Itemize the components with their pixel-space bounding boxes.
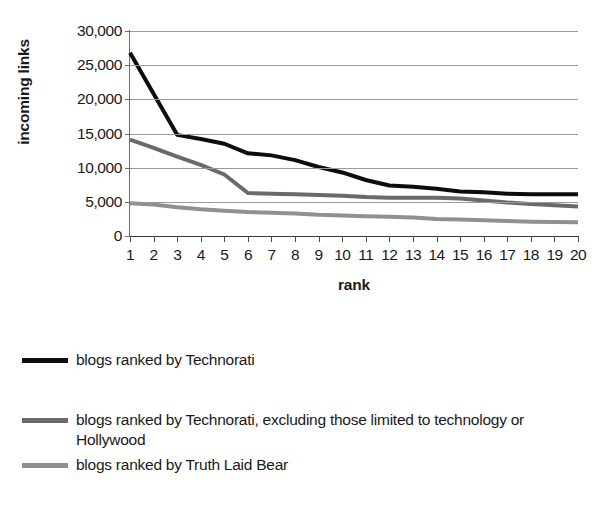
y-tick-mark — [125, 202, 130, 203]
chart-plot-region: incoming links 05,00010,00015,00020,0002… — [0, 0, 596, 310]
x-tick-mark — [554, 236, 555, 242]
y-tick-label: 5,000 — [85, 193, 122, 211]
x-tick-mark — [248, 236, 249, 242]
y-tick-label: 0 — [114, 227, 122, 245]
legend-item[interactable]: blogs ranked by Technorati — [22, 350, 254, 370]
x-tick-label: 13 — [405, 246, 421, 264]
x-tick-label: 20 — [570, 246, 586, 264]
x-tick-mark — [366, 236, 367, 242]
x-tick-label: 16 — [476, 246, 492, 264]
y-tick-mark — [125, 31, 130, 32]
y-tick-mark — [125, 168, 130, 169]
gridline — [130, 202, 578, 203]
y-tick-label: 15,000 — [77, 125, 122, 143]
x-tick-mark — [531, 236, 532, 242]
y-tick-mark — [125, 99, 130, 100]
x-tick-mark — [342, 236, 343, 242]
y-tick-mark — [125, 134, 130, 135]
x-tick-mark — [224, 236, 225, 242]
gridline — [130, 99, 578, 100]
y-tick-label: 30,000 — [77, 22, 122, 40]
legend-item[interactable]: blogs ranked by Truth Laid Bear — [22, 455, 288, 475]
x-tick-mark — [413, 236, 414, 242]
x-axis-title: rank — [130, 276, 578, 294]
gridline — [130, 31, 578, 32]
x-tick-label: 1 — [126, 246, 134, 264]
legend-line-swatch-icon — [22, 463, 68, 468]
x-tick-label: 2 — [150, 246, 158, 264]
x-tick-label: 4 — [197, 246, 205, 264]
x-tick-label: 12 — [381, 246, 397, 264]
x-axis-line — [129, 236, 578, 237]
y-tick-label: 20,000 — [77, 90, 122, 108]
x-tick-mark — [460, 236, 461, 242]
x-tick-mark — [130, 236, 131, 242]
y-tick-label: 25,000 — [77, 56, 122, 74]
x-tick-mark — [319, 236, 320, 242]
y-tick-label: 10,000 — [77, 159, 122, 177]
x-tick-mark — [437, 236, 438, 242]
legend-item[interactable]: blogs ranked by Technorati, excluding th… — [22, 410, 596, 450]
x-tick-label: 18 — [523, 246, 539, 264]
blog-incoming-links-line-chart: incoming links 05,00010,00015,00020,0002… — [0, 0, 596, 505]
x-tick-label: 3 — [173, 246, 181, 264]
legend-label: blogs ranked by Technorati, excluding th… — [76, 410, 596, 450]
x-tick-label: 7 — [267, 246, 275, 264]
x-tick-label: 6 — [244, 246, 252, 264]
gridline — [130, 65, 578, 66]
x-tick-mark — [507, 236, 508, 242]
x-tick-label: 10 — [334, 246, 350, 264]
x-tick-label: 11 — [358, 246, 373, 264]
y-tick-mark — [125, 65, 130, 66]
plot-canvas — [130, 31, 578, 236]
x-tick-mark — [484, 236, 485, 242]
series-line — [130, 140, 578, 207]
x-tick-label: 15 — [452, 246, 468, 264]
series-line — [130, 203, 578, 222]
x-tick-mark — [177, 236, 178, 242]
x-axis-tick-labels: 1234567891011121314151617181920 — [130, 246, 578, 268]
legend-line-swatch-icon — [22, 358, 68, 363]
x-tick-label: 19 — [546, 246, 562, 264]
x-tick-mark — [295, 236, 296, 242]
x-tick-mark — [578, 236, 579, 242]
legend-label: blogs ranked by Truth Laid Bear — [76, 455, 288, 475]
x-tick-label: 5 — [220, 246, 228, 264]
x-tick-mark — [201, 236, 202, 242]
x-tick-label: 8 — [291, 246, 299, 264]
gridline — [130, 168, 578, 169]
gridline — [130, 134, 578, 135]
x-tick-mark — [154, 236, 155, 242]
x-tick-label: 17 — [499, 246, 515, 264]
x-tick-mark — [389, 236, 390, 242]
x-tick-label: 9 — [315, 246, 323, 264]
legend-line-swatch-icon — [22, 418, 68, 423]
y-axis-tick-labels: 05,00010,00015,00020,00025,00030,000 — [26, 0, 122, 250]
series-line — [130, 53, 578, 194]
x-tick-label: 14 — [428, 246, 444, 264]
legend-label: blogs ranked by Technorati — [76, 350, 254, 370]
x-tick-mark — [271, 236, 272, 242]
